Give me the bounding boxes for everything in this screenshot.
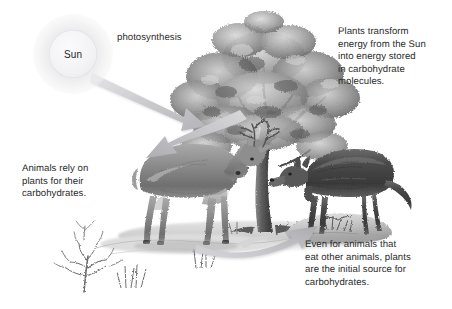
sun-disc: Sun — [49, 30, 97, 78]
background-shrub-illustration — [150, 194, 168, 210]
deer-illustration — [132, 118, 279, 245]
diagram-canvas: Sun photosynthesis Plants transform ener… — [0, 0, 452, 309]
callout-carnivores-initial-source: Even for animals that eat other animals,… — [305, 239, 451, 289]
callout-plants-transform: Plants transform energy from the Sun int… — [338, 26, 450, 89]
bare-shrub-illustration — [54, 221, 122, 292]
wolf-illustration — [269, 149, 412, 234]
grass-clump-right-illustration — [194, 248, 216, 268]
tree-illustration — [170, 11, 360, 234]
arrow-deer-to-wolf — [196, 226, 318, 258]
arrow-tree-to-deer — [146, 110, 247, 158]
label-photosynthesis: photosynthesis — [117, 32, 182, 45]
grass-clump-illustration — [117, 264, 146, 288]
callout-animals-rely: Animals rely on plants for their carbohy… — [22, 163, 130, 201]
sun-graphic: Sun — [33, 14, 113, 94]
sun-label: Sun — [64, 49, 82, 60]
